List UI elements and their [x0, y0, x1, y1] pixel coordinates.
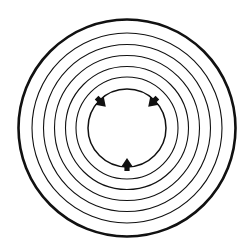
concentric-rings-diagram — [0, 0, 252, 251]
background — [0, 0, 252, 251]
